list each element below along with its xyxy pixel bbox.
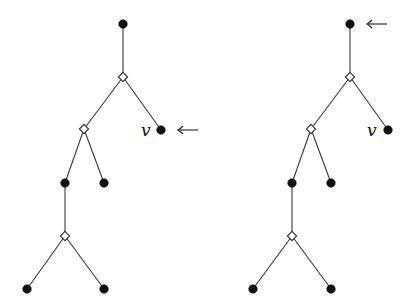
- edge-d2-a: [292, 129, 311, 183]
- edge-d1-d2: [84, 77, 123, 129]
- diamond-node-d1: [345, 72, 354, 81]
- diamond-node-d3: [287, 231, 296, 240]
- node-c: [249, 285, 258, 294]
- node-c: [23, 285, 32, 294]
- diamond-node-d1: [118, 72, 127, 81]
- edge-d3-e: [65, 236, 104, 289]
- node-v: [384, 126, 393, 135]
- node-v: [157, 126, 166, 135]
- diamond-node-d2: [79, 124, 88, 133]
- diamond-node-d2: [306, 124, 315, 133]
- edge-d2-b: [311, 129, 331, 183]
- node-root: [119, 20, 128, 29]
- diamond-node-d3: [60, 231, 69, 240]
- edge-d3-c: [253, 236, 292, 289]
- left-arrow-icon: [178, 126, 198, 134]
- left-tree: [23, 20, 198, 294]
- edge-d2-a: [65, 129, 84, 183]
- edge-d3-c: [27, 236, 65, 289]
- node-b: [100, 179, 109, 188]
- node-a: [61, 179, 70, 188]
- edge-d3-e: [292, 236, 331, 289]
- edge-d2-b: [84, 129, 104, 183]
- node-root: [346, 20, 355, 29]
- node-b: [327, 179, 336, 188]
- edge-d1-d2: [311, 77, 350, 129]
- right-v-label: v: [367, 120, 377, 140]
- node-e: [100, 285, 109, 294]
- left-arrow-icon: [367, 20, 387, 28]
- node-a: [288, 179, 297, 188]
- node-e: [327, 285, 336, 294]
- right-tree: [249, 20, 393, 294]
- left-v-label: v: [141, 120, 151, 140]
- tree-diagram: v v: [0, 0, 417, 308]
